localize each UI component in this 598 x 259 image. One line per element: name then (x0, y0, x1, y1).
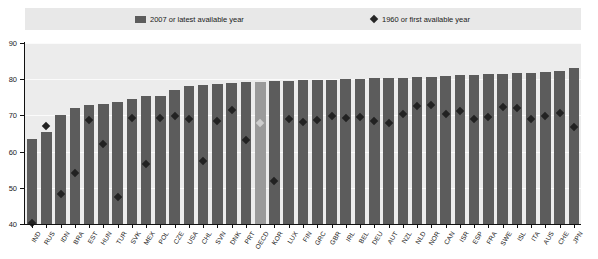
x-axis-tick (146, 225, 147, 228)
bar-aut[interactable] (383, 78, 394, 224)
bar-group[interactable] (70, 43, 81, 224)
bar-group[interactable] (483, 43, 494, 224)
x-axis-tick (274, 225, 275, 228)
bar-irl[interactable] (340, 79, 351, 224)
bar-group[interactable] (569, 43, 580, 224)
bar-group[interactable] (269, 43, 280, 224)
bar-group[interactable] (141, 43, 152, 224)
bar-cze[interactable] (169, 90, 180, 224)
bar-fin[interactable] (298, 80, 309, 224)
bar-gbr[interactable] (326, 80, 337, 224)
bar-group[interactable] (312, 43, 323, 224)
bar-deu[interactable] (369, 78, 380, 224)
bar-group[interactable] (398, 43, 409, 224)
x-axis-tick-label-swe: SWE (498, 230, 512, 247)
bar-aus[interactable] (540, 72, 551, 224)
bar-group[interactable] (540, 43, 551, 224)
bar-group[interactable] (198, 43, 209, 224)
bar-group[interactable] (326, 43, 337, 224)
bar-group[interactable] (554, 43, 565, 224)
bar-lux[interactable] (283, 81, 294, 224)
x-axis-tick (203, 225, 204, 228)
bar-group[interactable] (512, 43, 523, 224)
x-axis-tick-label-can: CAN (442, 230, 455, 246)
x-axis-tick (46, 225, 47, 228)
bar-nzl[interactable] (398, 78, 409, 224)
bar-group[interactable] (469, 43, 480, 224)
x-axis-tick (61, 225, 62, 228)
diamond-marker-icon (370, 15, 378, 23)
bar-group[interactable] (369, 43, 380, 224)
bar-group[interactable] (455, 43, 466, 224)
bar-group[interactable] (340, 43, 351, 224)
bar-group[interactable] (283, 43, 294, 224)
x-axis-tick (118, 225, 119, 228)
bar-hun[interactable] (98, 104, 109, 224)
plot-area (25, 43, 581, 224)
bar-group[interactable] (27, 43, 38, 224)
bar-bel[interactable] (355, 79, 366, 224)
bar-grc[interactable] (312, 80, 323, 224)
bar-group[interactable] (184, 43, 195, 224)
bar-svn[interactable] (212, 84, 223, 224)
x-axis-tick (431, 225, 432, 228)
x-axis-tick-label-esp: ESP (471, 230, 484, 245)
bar-esp[interactable] (469, 75, 480, 225)
bar-kor[interactable] (269, 81, 280, 224)
bar-isl[interactable] (512, 73, 523, 224)
bar-can[interactable] (440, 76, 451, 224)
bar-group[interactable] (383, 43, 394, 224)
bar-group[interactable] (355, 43, 366, 224)
bar-group[interactable] (84, 43, 95, 224)
bar-group[interactable] (127, 43, 138, 224)
x-axis-tick-label-bel: BEL (357, 230, 370, 245)
bar-group[interactable] (426, 43, 437, 224)
y-axis-tick (20, 152, 25, 153)
bar-oecd[interactable] (255, 82, 266, 224)
bar-swe[interactable] (497, 74, 508, 224)
bar-group[interactable] (241, 43, 252, 224)
bar-group[interactable] (169, 43, 180, 224)
bar-group[interactable] (112, 43, 123, 224)
bar-che[interactable] (554, 71, 565, 224)
bar-group[interactable] (226, 43, 237, 224)
y-axis-tick (20, 188, 25, 189)
x-axis-tick-label-nor: NOR (427, 230, 441, 246)
bar-bra[interactable] (70, 108, 81, 224)
bar-nld[interactable] (412, 77, 423, 224)
bar-prt[interactable] (241, 82, 252, 224)
x-axis-tick (460, 225, 461, 228)
y-axis-tick-label: 40 (9, 220, 20, 229)
bar-chl[interactable] (198, 85, 209, 224)
bar-dnk[interactable] (226, 83, 237, 224)
bar-group[interactable] (255, 43, 266, 224)
bar-rus[interactable] (41, 132, 52, 224)
bar-swatch-icon (135, 16, 146, 23)
bar-jpn[interactable] (569, 68, 580, 224)
bar-idn[interactable] (55, 115, 66, 224)
bar-tur[interactable] (112, 102, 123, 224)
bar-nor[interactable] (426, 77, 437, 224)
bar-isr[interactable] (455, 75, 466, 224)
bar-group[interactable] (440, 43, 451, 224)
x-axis-tick-label-est: EST (86, 230, 99, 245)
bar-group[interactable] (412, 43, 423, 224)
x-axis-tick-label-hun: HUN (100, 230, 114, 246)
bar-ita[interactable] (526, 73, 537, 224)
bar-fra[interactable] (483, 74, 494, 224)
bar-group[interactable] (98, 43, 109, 224)
x-axis-tick-label-ind: IND (30, 230, 42, 244)
bar-group[interactable] (497, 43, 508, 224)
bar-group[interactable] (155, 43, 166, 224)
bar-group[interactable] (212, 43, 223, 224)
bar-ind[interactable] (27, 139, 38, 224)
x-axis-tick (246, 225, 247, 228)
diamond-marker-rus[interactable] (42, 121, 50, 129)
bar-group[interactable] (55, 43, 66, 224)
bar-usa[interactable] (184, 86, 195, 224)
y-axis-tick (20, 43, 25, 44)
bar-group[interactable] (41, 43, 52, 224)
bar-group[interactable] (526, 43, 537, 224)
x-axis-tick-label-nld: NLD (414, 230, 427, 245)
bar-group[interactable] (298, 43, 309, 224)
